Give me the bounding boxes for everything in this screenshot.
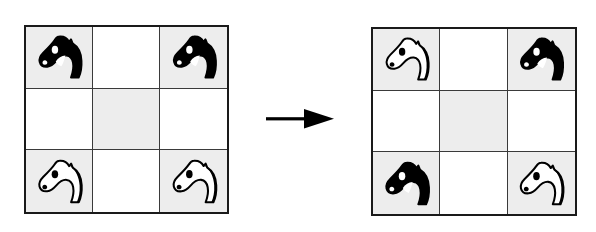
board-right-cell-r0c2 bbox=[508, 29, 575, 91]
figure-canvas bbox=[0, 0, 596, 232]
board-left-cell-r0c2 bbox=[160, 27, 227, 89]
chessboard-start bbox=[24, 25, 229, 214]
board-left-cell-r2c2 bbox=[160, 150, 227, 212]
board-left-cell-r0c0 bbox=[26, 27, 93, 89]
chessboard-end bbox=[371, 27, 577, 216]
white-knight-icon bbox=[378, 33, 435, 85]
board-left-cell-r2c0 bbox=[26, 150, 93, 212]
board-left-cell-r0c1 bbox=[93, 27, 160, 89]
white-knight-icon bbox=[31, 155, 88, 208]
board-left-cell-r1c0 bbox=[26, 89, 93, 151]
board-right-cell-r0c1 bbox=[440, 29, 507, 91]
board-right-cell-r2c1 bbox=[440, 152, 507, 214]
board-right-cell-r1c0 bbox=[373, 91, 440, 153]
black-knight-icon bbox=[31, 31, 88, 83]
rightward-arrow bbox=[266, 104, 334, 134]
white-knight-icon bbox=[165, 155, 223, 208]
board-right-cell-r1c2 bbox=[508, 91, 575, 153]
board-right-cell-r2c0 bbox=[373, 152, 440, 214]
board-right-cell-r2c2 bbox=[508, 152, 575, 214]
board-right-cell-r0c0 bbox=[373, 29, 440, 91]
board-left-cell-r2c1 bbox=[93, 150, 160, 212]
black-knight-icon bbox=[378, 157, 435, 210]
black-knight-icon bbox=[512, 33, 570, 85]
board-left-cell-r1c2 bbox=[160, 89, 227, 151]
black-knight-icon bbox=[165, 31, 223, 83]
board-right-cell-r1c1 bbox=[440, 91, 507, 153]
board-left-cell-r1c1 bbox=[93, 89, 160, 151]
white-knight-icon bbox=[512, 157, 570, 210]
